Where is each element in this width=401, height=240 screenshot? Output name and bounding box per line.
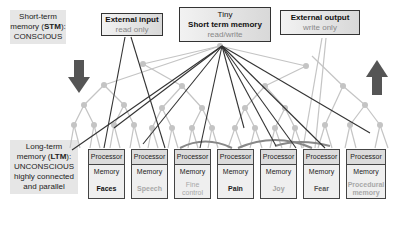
module-name: Faces — [89, 179, 124, 199]
module-fear: Processor Memory Fear — [303, 149, 340, 199]
memory-label: Memory — [89, 165, 124, 179]
module-name: Procedural memory — [347, 179, 385, 199]
module-name: Speech — [132, 179, 167, 199]
processor-label: Processor — [175, 150, 210, 165]
module-arcs — [180, 140, 330, 148]
up-arrow-icon — [366, 60, 388, 95]
memory-label: Memory — [218, 165, 253, 179]
module-pain: Processor Memory Pain — [217, 149, 254, 199]
processor-label: Processor — [261, 150, 296, 165]
processor-label: Processor — [132, 150, 167, 165]
down-arrow-icon — [68, 60, 90, 93]
module-speech: Processor Memory Speech — [131, 149, 168, 199]
processor-label: Processor — [347, 150, 385, 165]
processor-label: Processor — [89, 150, 124, 165]
module-name: Fear — [304, 179, 339, 199]
memory-label: Memory — [132, 165, 167, 179]
tree-lines — [70, 38, 388, 148]
memory-label: Memory — [347, 165, 385, 179]
module-procedural-memory: Processor Memory Procedural memory — [346, 149, 386, 199]
memory-label: Memory — [175, 165, 210, 179]
module-name: Fine control — [175, 179, 210, 199]
module-fine-control: Processor Memory Fine control — [174, 149, 211, 199]
module-joy: Processor Memory Joy — [260, 149, 297, 199]
module-name: Joy — [261, 179, 296, 199]
processor-label: Processor — [218, 150, 253, 165]
memory-label: Memory — [304, 165, 339, 179]
module-name: Pain — [218, 179, 253, 199]
module-faces: Processor Memory Faces — [88, 149, 125, 199]
processor-label: Processor — [304, 150, 339, 165]
memory-label: Memory — [261, 165, 296, 179]
